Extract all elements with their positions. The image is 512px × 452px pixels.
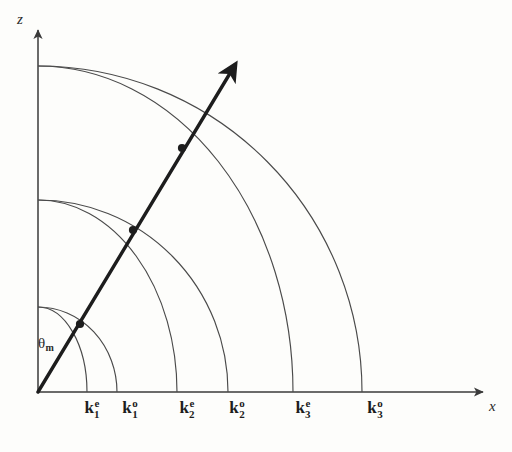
x-axis-label: x (489, 399, 496, 414)
k-label-subscript: 3 (377, 408, 383, 420)
arc-k3e (38, 66, 293, 392)
theta-m-angle-label: θm (38, 336, 54, 353)
z-axis-label: z (17, 12, 23, 27)
intersection-point (129, 226, 137, 234)
k-tick-label-k1e: ke1 (85, 398, 100, 420)
k-tick-label-k3o: ko3 (367, 398, 382, 420)
theta-subscript: m (45, 342, 53, 353)
k-tick-label-k1o: ko1 (122, 398, 137, 420)
intersection-point (178, 144, 186, 152)
k-tick-label-k2o: ko2 (229, 398, 244, 420)
k-label-subscript: 1 (94, 408, 100, 420)
arc-k3o (38, 66, 362, 392)
k-label-base: k (122, 398, 131, 417)
diagram-canvas (0, 0, 512, 452)
wave-vector-diagram: z x θm ke1ko1ke2ko2ke3ko3 (0, 0, 512, 452)
axes-group (38, 30, 483, 392)
k-label-base: k (229, 398, 238, 417)
k-label-subscript: 2 (189, 408, 195, 420)
k-label-subscript: 3 (305, 408, 311, 420)
k-label-subscript: 2 (239, 408, 245, 420)
index-surface-arcs (38, 66, 362, 392)
k-label-base: k (367, 398, 376, 417)
k-tick-label-k2e: ke2 (180, 398, 195, 420)
k-label-subscript: 1 (132, 408, 138, 420)
k-tick-label-k3e: ke3 (296, 398, 311, 420)
arc-k2e (38, 200, 177, 392)
intersection-point (76, 320, 84, 328)
